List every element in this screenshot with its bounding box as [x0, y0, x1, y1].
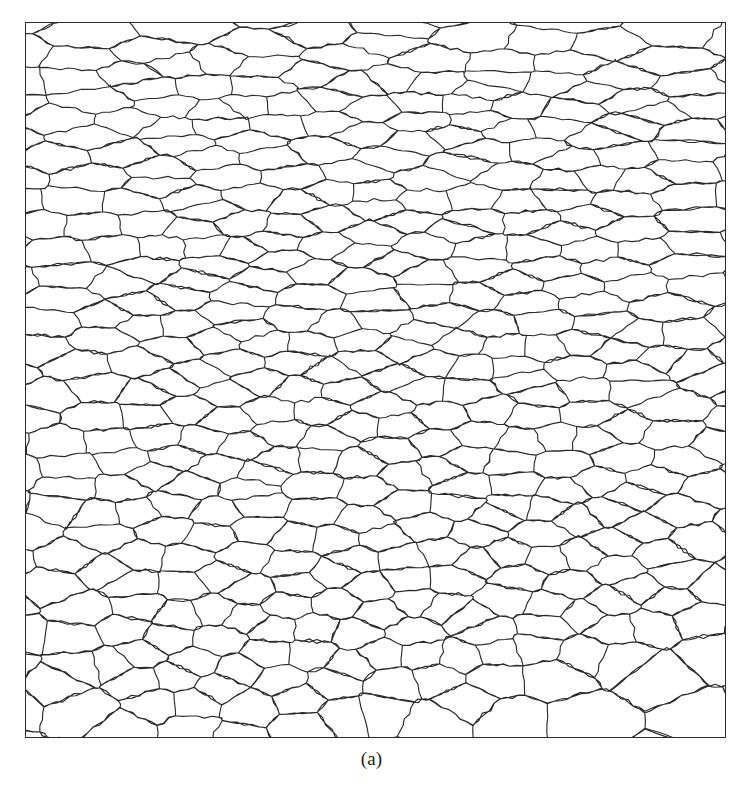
figure-caption: (a): [0, 748, 743, 770]
micrograph-panel: [25, 22, 726, 738]
figure-root: (a): [0, 0, 743, 786]
grain-structure-svg: [25, 22, 726, 738]
